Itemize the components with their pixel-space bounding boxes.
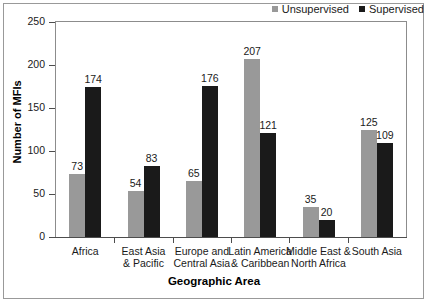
bar	[244, 59, 260, 237]
x-tick-mark	[114, 238, 115, 243]
bar-value-label: 176	[194, 73, 226, 84]
bar-value-label: 121	[252, 120, 284, 131]
x-tick-label: South Asia	[342, 245, 412, 257]
bar-value-label: 207	[236, 46, 268, 57]
bar	[85, 87, 101, 237]
legend-label: Supervised	[369, 3, 424, 15]
x-tick-mark	[348, 238, 349, 243]
legend-item: Unsupervised	[272, 3, 349, 15]
y-tick-mark	[49, 151, 55, 152]
y-tick-mark	[49, 237, 55, 238]
bars-layer: 731745483651762071213520125109	[56, 22, 406, 237]
bar-value-label: 83	[136, 153, 168, 164]
bar-value-label: 20	[311, 207, 343, 218]
bar	[202, 86, 218, 237]
legend-item: Supervised	[359, 3, 424, 15]
bar-value-label: 125	[353, 117, 385, 128]
legend-label: Unsupervised	[282, 3, 349, 15]
bar-value-label: 109	[369, 130, 401, 141]
x-axis-title: Geographic Area	[0, 275, 428, 287]
y-tick-mark	[49, 194, 55, 195]
bar	[260, 133, 276, 237]
y-axis-title: Number of MFIs	[11, 42, 23, 202]
bar	[186, 181, 202, 237]
bar	[69, 174, 85, 237]
bar	[377, 143, 393, 237]
bar	[319, 220, 335, 237]
y-tick-mark	[49, 22, 55, 23]
bar	[128, 191, 144, 237]
chart-figure: UnsupervisedSupervised 050100150200250 7…	[0, 0, 428, 304]
legend-swatch-icon	[272, 6, 278, 12]
y-tick-mark	[49, 65, 55, 66]
legend-swatch-icon	[359, 6, 365, 12]
bar-value-label: 174	[77, 74, 109, 85]
y-tick-mark	[49, 108, 55, 109]
bar	[361, 130, 377, 238]
x-tick-mark	[289, 238, 290, 243]
y-tick-label: 250	[5, 16, 45, 26]
bar-value-label: 35	[295, 194, 327, 205]
chart-legend: UnsupervisedSupervised	[272, 3, 424, 15]
x-tick-mark	[231, 238, 232, 243]
y-tick-label: 0	[5, 231, 45, 241]
x-tick-mark	[173, 238, 174, 243]
bar	[144, 166, 160, 237]
